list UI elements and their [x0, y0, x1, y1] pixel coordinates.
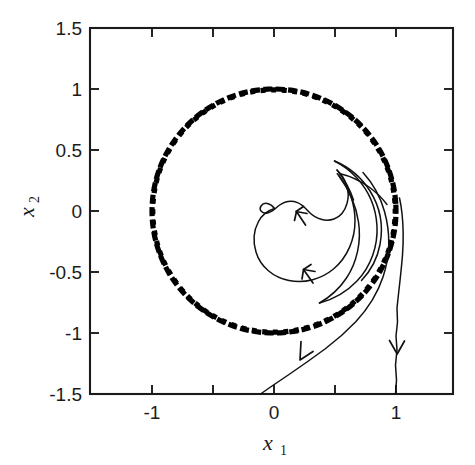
- x-axis-title: x 1: [262, 430, 287, 458]
- y-axis-title-text: x: [14, 207, 39, 218]
- x-axis-title-subscript: 1: [280, 443, 287, 458]
- x-axis-ticks: [152, 28, 396, 394]
- y-tick-label: 0: [71, 201, 82, 222]
- plot-canvas: 1.5 1 0.5 0 -0.5 -1 -1.5 -1 0 1 x 1 x 2: [0, 0, 475, 465]
- y-tick-label: -1.5: [49, 384, 82, 405]
- x-tick-label: 1: [391, 402, 402, 423]
- y-tick-label: 1.5: [56, 18, 82, 39]
- flow-arrow-icon: [304, 265, 316, 272]
- phase-portrait-figure: 1.5 1 0.5 0 -0.5 -1 -1.5 -1 0 1 x 1 x 2: [0, 0, 475, 465]
- y-axis-title-subscript: 2: [27, 196, 42, 203]
- y-tick-label: -0.5: [49, 262, 82, 283]
- y-axis-title: x 2: [14, 196, 42, 218]
- y-tick-label: -1: [65, 323, 82, 344]
- outer-vertical-trajectory: [390, 198, 405, 394]
- x-tick-labels: -1 0 1: [144, 402, 402, 423]
- x-tick-label: -1: [144, 402, 161, 423]
- y-tick-label: 1: [71, 79, 82, 100]
- y-tick-labels: 1.5 1 0.5 0 -0.5 -1 -1.5: [49, 18, 82, 405]
- flow-arrow-icon: [300, 342, 313, 361]
- limit-cycle-curve: [121, 58, 426, 363]
- x-tick-label: 0: [269, 402, 280, 423]
- inner-spiral-trajectory: [254, 161, 387, 303]
- x-axis-title-text: x: [262, 430, 273, 455]
- y-tick-label: 0.5: [56, 140, 82, 161]
